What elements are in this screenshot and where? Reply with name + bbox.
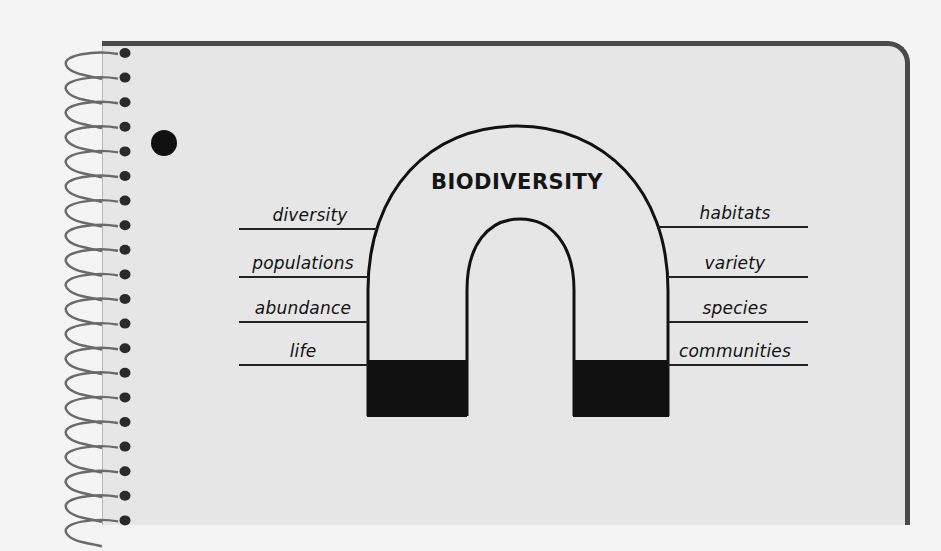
magnet-right-pole: [573, 360, 669, 417]
magnet-left-pole: [367, 360, 467, 417]
left-label-abundance: abundance: [255, 298, 351, 318]
right-label-habitats: habitats: [700, 203, 771, 223]
left-label-diversity: diversity: [272, 205, 347, 225]
spiral-binding-icon: [66, 48, 131, 546]
punch-hole-icon: [151, 130, 177, 156]
right-label-species: species: [703, 298, 768, 318]
right-label-communities: communities: [679, 341, 791, 361]
left-label-populations: populations: [252, 253, 354, 273]
diagram-title: BIODIVERSITY: [431, 170, 603, 194]
magnet-inner-outline: [467, 219, 574, 416]
right-label-variety: variety: [705, 253, 766, 273]
left-label-life: life: [290, 341, 317, 361]
diagram-canvas: [0, 0, 941, 551]
